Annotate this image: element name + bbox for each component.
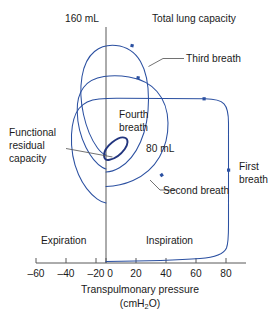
x-axis-units-post: O) [149, 298, 161, 309]
direction-marker-second-breath-top [136, 76, 140, 80]
label-fourth-breath-line2: breath [119, 122, 148, 133]
leader-third-breath-hook [149, 59, 164, 67]
x-ticklabel--60: –60 [28, 268, 45, 279]
x-ticklabel-0: 0 [107, 268, 113, 279]
label-y-top: 160 mL [65, 13, 99, 24]
label-frc-line2: residual [9, 140, 45, 151]
label-second-breath: Second breath [163, 185, 229, 196]
label-inspiration: Inspiration [146, 235, 193, 246]
label-frc-line3: capacity [9, 153, 47, 164]
x-axis-title: Transpulmonary pressure [81, 284, 199, 295]
x-ticklabel--40: –40 [58, 268, 75, 279]
direction-marker-first-breath-side [227, 169, 230, 172]
direction-marker-third-breath [130, 44, 134, 48]
x-ticklabel--20: –20 [88, 268, 105, 279]
direction-marker-first-breath-top [203, 97, 206, 100]
direction-marker-second-breath-lower [159, 173, 163, 177]
label-total-lung-capacity: Total lung capacity [152, 13, 237, 24]
label-third-breath: Third breath [186, 53, 241, 64]
x-axis-units-pre: (cmH [120, 298, 145, 309]
label-eighty-ml: 80 mL [146, 143, 175, 154]
label-expiration: Expiration [41, 235, 86, 246]
x-ticklabel-20: 20 [130, 268, 142, 279]
curve-fourth-breath [104, 138, 128, 160]
leader-second-breath-hook [150, 180, 160, 190]
x-ticklabel-80: 80 [220, 268, 232, 279]
pressure-volume-loop-figure: 160 mL Total lung capacity Third breath … [0, 0, 280, 311]
x-ticklabel-40: 40 [160, 268, 172, 279]
label-first-breath-line1: First [239, 161, 259, 172]
x-axis-units: (cmH2O) [120, 298, 161, 311]
x-ticklabel-60: 60 [190, 268, 202, 279]
label-frc-line1: Functional [9, 127, 56, 138]
label-fourth-breath-line1: Fourth [119, 109, 148, 120]
chart-svg: 160 mL Total lung capacity Third breath … [0, 0, 280, 311]
label-first-breath-line2: breath [239, 174, 268, 185]
